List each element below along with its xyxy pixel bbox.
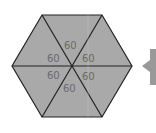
angle-label-upper-right: 60 (82, 53, 95, 64)
angle-label-bottom: 60 (63, 83, 76, 94)
hexagon-diagram: 60 60 60 60 60 60 (0, 0, 156, 133)
angle-label-lower-left: 60 (47, 70, 60, 81)
angle-label-lower-right: 60 (82, 71, 95, 82)
angle-label-top: 60 (64, 40, 77, 51)
pointer-arrow-icon (142, 49, 156, 85)
angle-label-upper-left: 60 (47, 53, 60, 64)
